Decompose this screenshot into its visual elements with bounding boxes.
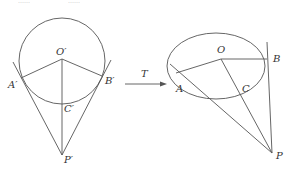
tangent-b (267, 42, 272, 153)
radius-o-b-prime (62, 59, 102, 76)
label-o-prime: O′ (56, 46, 67, 57)
label-t: T (141, 68, 149, 79)
affine-transform-diagram: …… …… O′ A′ B′ C′ P′ T O A B C P (0, 0, 291, 175)
cropped-caption-left: …… (18, 0, 30, 4)
radius-o-a-prime (21, 59, 62, 78)
label-a: A (175, 83, 183, 94)
label-c-prime: C′ (64, 103, 75, 114)
label-a-prime: A′ (7, 79, 18, 90)
right-ellipse-figure: O A B C P (167, 33, 283, 161)
label-c: C (242, 83, 250, 94)
tangent-a (170, 64, 272, 153)
label-p-prime: P′ (63, 154, 74, 165)
left-circle-figure: O′ A′ B′ C′ P′ (7, 18, 115, 165)
cropped-caption-right: …… (68, 0, 80, 4)
label-o: O (217, 44, 225, 55)
tangent-a-prime (13, 62, 62, 155)
transform-arrow: T (125, 68, 167, 87)
label-b: B (272, 53, 280, 64)
radius-o-a (176, 59, 221, 73)
label-b-prime: B′ (104, 75, 115, 86)
arrow-head-icon (160, 82, 167, 87)
label-p: P (275, 150, 283, 161)
